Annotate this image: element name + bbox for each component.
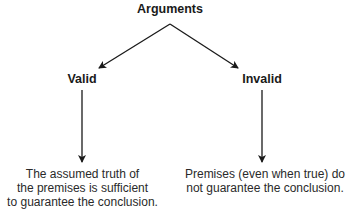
- arrow-to-invalid: [170, 24, 238, 68]
- node-valid: Valid: [52, 72, 112, 86]
- invalid-description: Premises (even when true) do not guarant…: [180, 167, 350, 195]
- valid-description-line: the premises is sufficient: [0, 181, 165, 195]
- valid-description-line: to guarantee the conclusion.: [0, 195, 165, 209]
- node-invalid: Invalid: [227, 72, 297, 86]
- valid-description-line: The assumed truth of: [0, 167, 165, 181]
- valid-description: The assumed truth of the premises is suf…: [0, 167, 165, 209]
- invalid-description-line: Premises (even when true) do: [180, 167, 350, 181]
- arrow-to-valid: [99, 24, 170, 68]
- invalid-description-line: not guarantee the conclusion.: [180, 181, 350, 195]
- root-node-arguments: Arguments: [120, 2, 220, 16]
